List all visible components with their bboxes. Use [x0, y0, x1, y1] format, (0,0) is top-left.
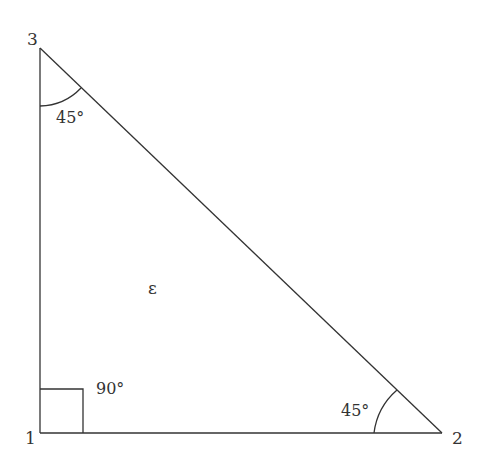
vertex-label-3: 3 — [27, 29, 38, 49]
angle-label-vertex3: 45° — [56, 108, 84, 127]
edge-2-3 — [40, 48, 442, 433]
interior-label-epsilon: ε — [148, 278, 157, 298]
vertex-label-1: 1 — [25, 428, 36, 448]
triangle-diagram: 3 1 2 45° 90° 45° ε — [0, 0, 488, 468]
angle-label-vertex1: 90° — [96, 379, 124, 398]
right-angle-marker — [40, 389, 83, 433]
angle-arc-vertex2 — [374, 390, 397, 433]
angle-arc-vertex3 — [40, 88, 81, 106]
vertex-label-2: 2 — [452, 428, 463, 448]
angle-label-vertex2: 45° — [341, 401, 369, 420]
